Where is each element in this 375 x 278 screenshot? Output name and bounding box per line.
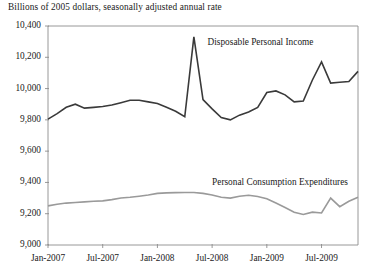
series-line-2 (48, 192, 358, 214)
y-axis-tick-label: 10,200 (0, 51, 41, 61)
y-axis-tick-label: 9,800 (0, 114, 41, 124)
x-axis-tick-label: Jan-2007 (31, 253, 65, 263)
x-axis-tick-label: Jan-2009 (250, 253, 284, 263)
chart-plot-area (0, 0, 375, 278)
x-axis-tick-label: Jul-2007 (86, 253, 119, 263)
x-axis-tick-label: Jul-2008 (196, 253, 229, 263)
x-axis-tick-label: Jan-2008 (140, 253, 174, 263)
y-axis-tick-label: 9,600 (0, 145, 41, 155)
y-axis-tick-label: 9,200 (0, 208, 41, 218)
y-axis-tick-label: 10,000 (0, 83, 41, 93)
y-axis-tick-label: 10,400 (0, 20, 41, 30)
series-label-1: Disposable Personal Income (208, 37, 314, 47)
series-line-1 (48, 37, 358, 120)
chart-container: Billions of 2005 dollars, seasonally adj… (0, 0, 375, 278)
y-axis-tick-label: 9,400 (0, 176, 41, 186)
x-axis-tick-label: Jul-2009 (305, 253, 338, 263)
y-axis-tick-label: 9,000 (0, 239, 41, 249)
series-label-2: Personal Consumption Expenditures (212, 177, 348, 187)
